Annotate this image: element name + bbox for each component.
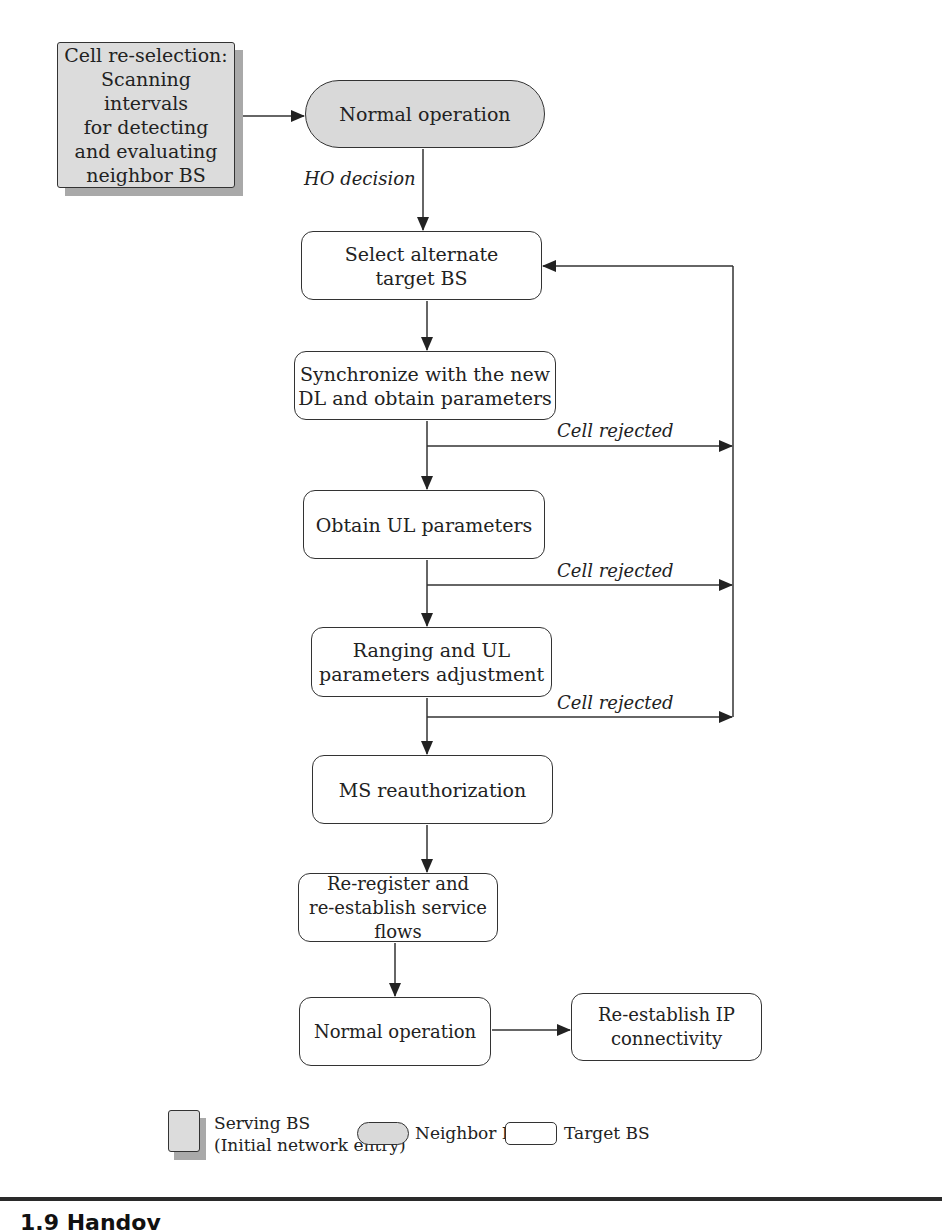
serving-bs-node: Cell re-selection: Scanning intervals fo… — [57, 42, 235, 188]
normal-operation-bottom-label: Normal operation — [314, 1020, 476, 1044]
figure-caption: 1.9 Handov — [20, 1210, 161, 1230]
ranging-line-2: parameters adjustment — [319, 662, 544, 686]
ms-reauthorization-node: MS reauthorization — [312, 755, 553, 824]
legend-serving-swatch — [168, 1110, 200, 1152]
select-target-node: Select alternate target BS — [301, 231, 542, 300]
obtain-ul-label: Obtain UL parameters — [316, 513, 533, 537]
normal-operation-top-label: Normal operation — [339, 102, 510, 126]
reauth-label: MS reauthorization — [339, 778, 527, 802]
cell-rejected-label-3: Cell rejected — [557, 692, 674, 713]
select-line-1: Select alternate — [345, 242, 499, 266]
serving-line-3: for detecting — [58, 115, 234, 139]
reestablish-line-1: Re-establish IP — [598, 1003, 735, 1027]
serving-line-2: Scanning intervals — [58, 67, 234, 115]
ranging-node: Ranging and UL parameters adjustment — [311, 627, 552, 697]
reregister-line-2: re-establish service flows — [299, 896, 497, 944]
figure-bottom-rule — [0, 1197, 942, 1201]
normal-operation-neighbor-node: Normal operation — [305, 80, 545, 148]
serving-line-5: neighbor BS — [58, 163, 234, 187]
sync-line-1: Synchronize with the new — [298, 362, 551, 386]
reregister-node: Re-register and re-establish service flo… — [298, 873, 498, 942]
cell-rejected-label-1: Cell rejected — [557, 420, 674, 441]
sync-line-2: DL and obtain parameters — [298, 386, 551, 410]
obtain-ul-node: Obtain UL parameters — [303, 490, 545, 559]
synchronize-node: Synchronize with the new DL and obtain p… — [294, 351, 556, 420]
reestablish-ip-node: Re-establish IP connectivity — [571, 993, 762, 1061]
legend-target-swatch — [505, 1122, 557, 1145]
legend-neighbor-swatch — [357, 1122, 409, 1145]
legend-target-label: Target BS — [564, 1122, 650, 1144]
reregister-line-1: Re-register and — [299, 872, 497, 896]
ho-decision-label: HO decision — [304, 168, 416, 189]
serving-line-1: Cell re-selection: — [58, 43, 234, 67]
normal-operation-target-node: Normal operation — [299, 997, 491, 1066]
ranging-line-1: Ranging and UL — [319, 638, 544, 662]
cell-rejected-label-2: Cell rejected — [557, 560, 674, 581]
serving-line-4: and evaluating — [58, 139, 234, 163]
select-line-2: target BS — [345, 266, 499, 290]
reestablish-line-2: connectivity — [598, 1027, 735, 1051]
